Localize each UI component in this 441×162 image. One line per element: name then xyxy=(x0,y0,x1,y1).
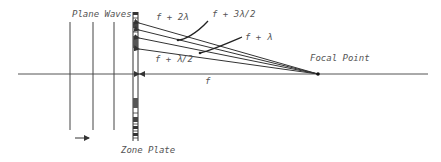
label-f-plus-half-lambda: f + λ/2 xyxy=(155,54,193,64)
zone-plate xyxy=(133,12,138,141)
label-f-plus-lambda: f + λ xyxy=(245,32,273,42)
label-zone-plate: Zone Plate xyxy=(120,145,175,155)
label-focal-length: f xyxy=(205,76,211,86)
focal-point-dot xyxy=(316,72,320,76)
label-f-plus-3half-lambda: f + 3λ/2 xyxy=(212,9,255,19)
zone-plate-diagram: Plane Waves Zone Plate Focal Point f f +… xyxy=(0,0,441,162)
leader-3half-lambda xyxy=(178,21,208,40)
label-focal-point: Focal Point xyxy=(310,53,370,63)
plane-waves xyxy=(70,22,114,130)
rays xyxy=(139,23,318,74)
label-f-plus-2lambda: f + 2λ xyxy=(156,12,189,22)
label-plane-waves: Plane Waves xyxy=(72,9,132,19)
ray-f-plus-3half-lambda xyxy=(139,30,318,74)
ray-f-plus-2lambda xyxy=(139,23,318,74)
axis-arrow-icon xyxy=(139,71,145,77)
